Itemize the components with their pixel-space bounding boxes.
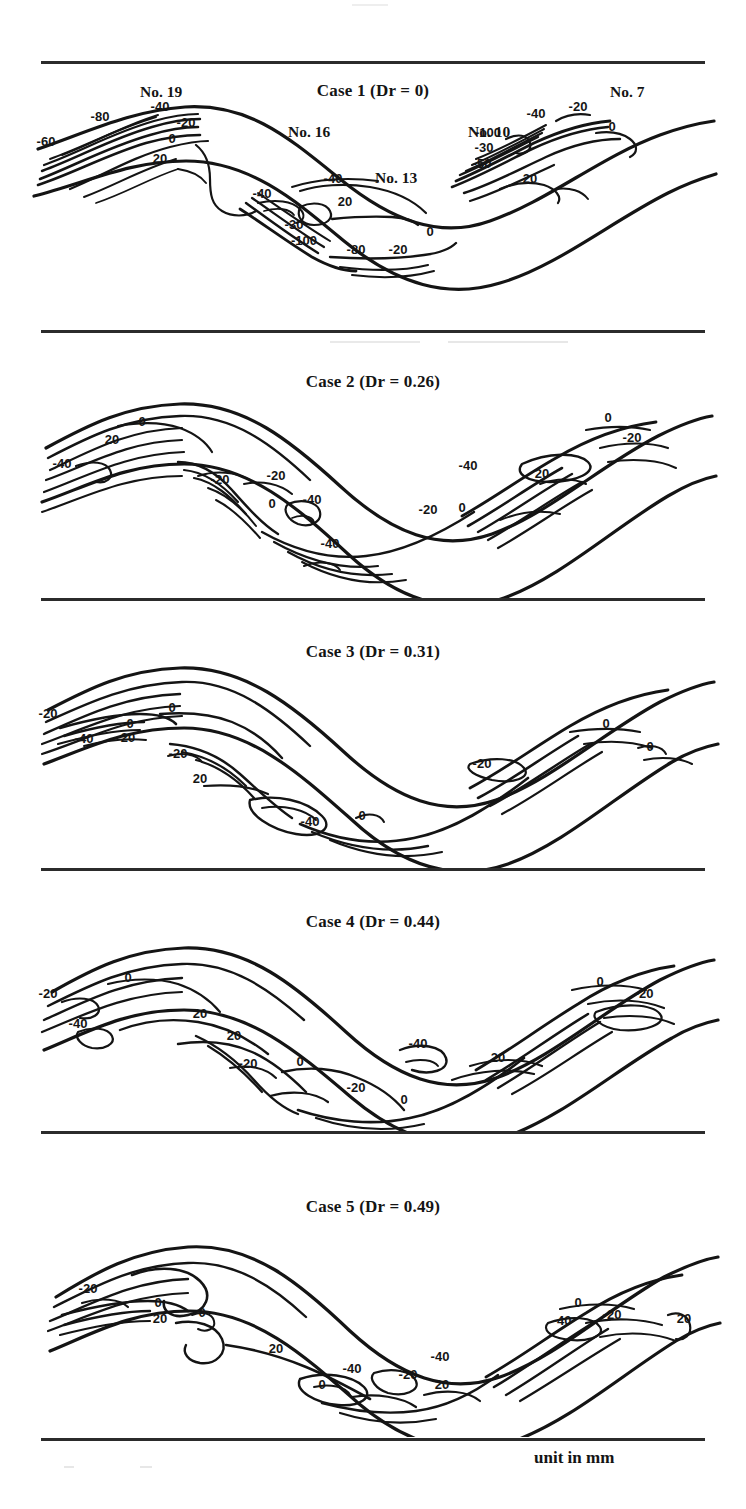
contour-value-label: 20 — [227, 1028, 241, 1043]
contour-value-label: -40 — [324, 171, 343, 186]
contour-value-label: 0 — [154, 1295, 161, 1310]
contour-plot-case-2: 020-40-20-200-40-40-200-40200-20 — [0, 380, 746, 598]
contour-value-label: -60 — [37, 134, 56, 149]
contour-value-label: -20 — [419, 502, 438, 517]
contour-value-label: 0 — [318, 1377, 325, 1392]
contour-value-label: -20 — [39, 986, 58, 1001]
panel-separator-rule — [41, 1438, 705, 1441]
contour-value-label: -50 — [473, 156, 492, 171]
contour-value-label: -80 — [347, 242, 366, 257]
contour-figure: Case 1 (Dr = 0) — [0, 0, 746, 1509]
contour-value-label: -30 — [285, 217, 304, 232]
contour-value-label: -100 — [291, 233, 317, 248]
contour-value-label: -40 — [459, 458, 478, 473]
contour-value-label: -40 — [431, 1349, 450, 1364]
contour-plot-case-5: -20020020-400-20-40200-40-2020 — [0, 1211, 746, 1437]
contour-value-label: -20 — [267, 468, 286, 483]
contour-value-label: 0 — [358, 808, 365, 823]
contour-value-label: 20 — [121, 730, 135, 745]
panel-case-2: Case 2 (Dr = 0.26) — [0, 330, 746, 598]
contour-svg: -80-60-40-20020-40-4020-30-100-80-200-10… — [0, 61, 746, 330]
contour-value-label: -20 — [239, 1056, 258, 1071]
contour-value-label: 20 — [193, 771, 207, 786]
gauge-label: No. 7 — [610, 83, 644, 101]
contour-value-label: 20 — [677, 1311, 691, 1326]
contour-value-label: 20 — [535, 466, 549, 481]
units-note: unit in mm — [534, 1448, 614, 1468]
contour-value-label: -20 — [177, 115, 196, 130]
contour-value-label: -20 — [569, 99, 588, 114]
contour-value-label: 0 — [296, 1054, 303, 1069]
contour-value-label: -20 — [623, 430, 642, 445]
contour-value-label: 0 — [646, 739, 653, 754]
contour-value-label: -20 — [79, 1281, 98, 1296]
panel-case-4: Case 4 (Dr = 0.44) — [0, 868, 746, 1131]
contour-value-label: 0 — [168, 131, 175, 146]
contour-value-label: 0 — [168, 700, 175, 715]
gauge-label: No. 10 — [468, 123, 510, 141]
contour-value-label: 0 — [604, 410, 611, 425]
contour-svg: 020-40-20-200-40-40-200-40200-20 — [0, 380, 746, 598]
contour-value-label: 0 — [574, 1295, 581, 1310]
contour-value-label: 0 — [426, 224, 433, 239]
contour-value-label: -40 — [409, 1036, 428, 1051]
contour-value-label: 20 — [153, 1311, 167, 1326]
contour-value-label: -20 — [39, 706, 58, 721]
scan-artifact-top — [352, 4, 388, 6]
scan-artifact — [64, 1466, 74, 1468]
contour-value-label: 20 — [491, 1050, 505, 1065]
contour-value-label: -40 — [69, 1016, 88, 1031]
contour-value-label: 0 — [458, 500, 465, 515]
panel-case-5: Case 5 (Dr = 0.49) — [0, 1131, 746, 1438]
contour-value-label: 20 — [153, 151, 167, 166]
contour-svg: -200-402020-200-200-40200-20 — [0, 920, 746, 1131]
contour-value-label: -40 — [151, 99, 170, 114]
contour-value-label: -20 — [473, 756, 492, 771]
contour-plot-case-3: -2000-4020-2020-400-2000 — [0, 648, 746, 868]
contour-value-label: -20 — [211, 472, 230, 487]
contour-value-label: -20 — [603, 1307, 622, 1322]
contour-plot-case-1: -80-60-40-20020-40-4020-30-100-80-200-10… — [0, 61, 746, 330]
contour-value-label: -20 — [169, 746, 188, 761]
panel-case-1: Case 1 (Dr = 0) — [0, 61, 746, 330]
contour-value-label: 0 — [198, 1305, 205, 1320]
contour-value-label: -20 — [389, 242, 408, 257]
contour-value-label: 20 — [105, 432, 119, 447]
contour-value-label: 20 — [523, 171, 537, 186]
contour-value-label: -40 — [303, 492, 322, 507]
scan-artifact — [140, 1466, 152, 1468]
contour-value-label: -30 — [475, 140, 494, 155]
contour-value-label: 20 — [338, 194, 352, 209]
contour-value-label: -20 — [635, 986, 654, 1001]
contour-value-label: 0 — [268, 496, 275, 511]
contour-value-label: -20 — [399, 1367, 418, 1382]
gauge-label: No. 13 — [375, 169, 417, 187]
contour-value-label: 0 — [138, 414, 145, 429]
contour-value-label: -40 — [321, 536, 340, 551]
contour-value-label: -40 — [527, 106, 546, 121]
contour-value-label: 0 — [126, 716, 133, 731]
contour-value-label: 20 — [269, 1341, 283, 1356]
contour-value-label: -40 — [253, 186, 272, 201]
panel-case-3: Case 3 (Dr = 0.31) — [0, 598, 746, 868]
contour-value-label: 0 — [596, 974, 603, 989]
contour-value-label: -40 — [343, 1361, 362, 1376]
contour-value-label: 0 — [608, 119, 615, 134]
contour-value-label: -40 — [301, 814, 320, 829]
contour-value-label: 20 — [435, 1377, 449, 1392]
contour-value-label: -40 — [553, 1313, 572, 1328]
contour-value-label: 20 — [193, 1006, 207, 1021]
contour-value-label: 0 — [124, 970, 131, 985]
gauge-label: No. 16 — [288, 123, 330, 141]
contour-value-label: 0 — [400, 1092, 407, 1107]
contour-svg: -20020020-400-20-40200-40-2020 — [0, 1211, 746, 1437]
contour-value-label: -40 — [53, 456, 72, 471]
contour-value-labels-case-4: -200-402020-200-200-40200-20 — [39, 970, 654, 1107]
contour-plot-case-4: -200-402020-200-200-40200-20 — [0, 920, 746, 1131]
contour-svg: -2000-4020-2020-400-2000 — [0, 648, 746, 868]
contour-value-label: -20 — [347, 1080, 366, 1095]
contour-value-label: -40 — [75, 731, 94, 746]
gauge-label: No. 19 — [140, 83, 182, 101]
contour-value-label: 0 — [602, 716, 609, 731]
contour-value-label: -80 — [91, 109, 110, 124]
